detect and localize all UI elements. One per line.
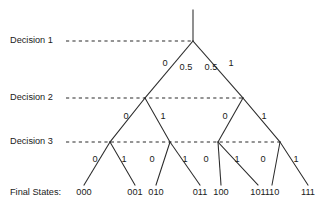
final-state-100: 100 bbox=[213, 187, 228, 197]
lbl-n01-right: 1 bbox=[182, 154, 187, 164]
lbl-n10-right: 1 bbox=[234, 154, 239, 164]
decision-row-labels: Decision 1Decision 2Decision 3 bbox=[10, 35, 53, 146]
lbl-n11-left: 0 bbox=[260, 154, 265, 164]
final-state-000: 000 bbox=[76, 187, 91, 197]
decision-tree-diagram: Decision 1Decision 2Decision 3 00.50.510… bbox=[0, 0, 317, 212]
final-state-001: 001 bbox=[127, 187, 142, 197]
lbl-n1-right: 1 bbox=[261, 111, 266, 121]
lbl-n1-left: 0 bbox=[222, 111, 227, 121]
lbl-n0-left: 0 bbox=[123, 111, 128, 121]
lbl-n01-left: 0 bbox=[149, 154, 154, 164]
lbl-root-right-p: 0.5 bbox=[205, 62, 218, 72]
edge-root-right bbox=[193, 41, 243, 98]
lbl-n10-left: 0 bbox=[203, 154, 208, 164]
final-state-011: 011 bbox=[193, 187, 208, 197]
lbl-root-left-0: 0 bbox=[162, 58, 167, 68]
final-states-caption: Final States: bbox=[10, 187, 61, 197]
edge-n01-left bbox=[156, 142, 170, 185]
edge-labels: 00.50.51010101010101 bbox=[92, 58, 298, 164]
tree-canvas: Decision 1Decision 2Decision 3 00.50.510… bbox=[0, 0, 317, 212]
final-state-111: 111 bbox=[301, 187, 315, 197]
final-state-010: 010 bbox=[148, 187, 163, 197]
decision-guide-lines bbox=[66, 41, 280, 142]
lbl-n11-right: 1 bbox=[293, 154, 298, 164]
lbl-n00-left: 0 bbox=[92, 154, 97, 164]
row-label-decision-2: Decision 2 bbox=[10, 92, 53, 102]
edge-n10-left bbox=[218, 142, 221, 185]
final-state-110: 110 bbox=[265, 187, 280, 197]
lbl-root-left-p: 0.5 bbox=[180, 62, 193, 72]
lbl-n0-right: 1 bbox=[160, 111, 165, 121]
final-state-101: 101 bbox=[250, 187, 265, 197]
final-state-labels: 000001010011100101110111 bbox=[76, 187, 315, 197]
final-states-caption-text: Final States: bbox=[10, 187, 61, 197]
lbl-n00-right: 1 bbox=[121, 154, 126, 164]
row-label-decision-1: Decision 1 bbox=[10, 35, 53, 45]
edge-n0-right bbox=[145, 98, 170, 142]
row-label-decision-3: Decision 3 bbox=[10, 136, 53, 146]
lbl-root-right-1: 1 bbox=[228, 58, 233, 68]
edge-n11-left bbox=[272, 142, 280, 185]
